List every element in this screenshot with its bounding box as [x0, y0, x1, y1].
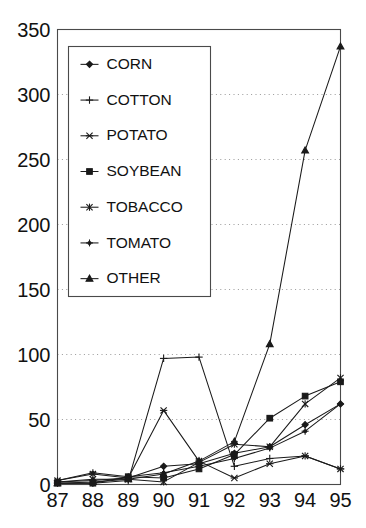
x-axis-tick-label: 89	[117, 489, 139, 511]
data-point-marker-star	[337, 374, 343, 381]
chart-canvas: 050100150200250300350 878889909192939495…	[0, 0, 366, 528]
x-axis-tick-labels: 878889909192939495	[46, 489, 351, 511]
data-point-marker-star	[302, 400, 308, 407]
y-axis-tick-labels: 050100150200250300350	[17, 19, 50, 496]
x-axis-tick-label: 91	[188, 489, 210, 511]
y-axis-tick-label: 150	[17, 279, 50, 301]
legend-item-label: COTTON	[107, 91, 172, 108]
data-point-marker-plus-dot	[89, 469, 96, 476]
x-axis-tick-label: 92	[223, 489, 245, 511]
line-chart: 050100150200250300350 878889909192939495…	[0, 0, 366, 528]
y-axis-tick-label: 250	[17, 149, 50, 171]
data-point-marker-plus	[231, 463, 238, 470]
y-axis-tick-label: 300	[17, 84, 50, 106]
legend-item-label: SOYBEAN	[107, 162, 182, 179]
data-point-marker-square	[87, 169, 93, 175]
y-axis-tick-label: 50	[28, 409, 50, 431]
x-axis-tick-label: 88	[82, 489, 104, 511]
data-point-marker-triangle	[302, 147, 309, 153]
data-point-marker-diamond	[302, 422, 308, 428]
series-soybean	[55, 379, 344, 486]
y-axis-tick-label: 350	[17, 19, 50, 41]
y-axis-tick-label: 100	[17, 344, 50, 366]
data-point-marker-triangle	[266, 341, 273, 347]
chart-legend: CORNCOTTONPOTATOSOYBEANTOBACCOTOMATOOTHE…	[69, 47, 211, 297]
legend-item-label: TOBACCO	[107, 198, 183, 215]
series-corn	[54, 401, 343, 485]
legend-item-label: OTHER	[107, 269, 161, 286]
x-axis-tick-label: 93	[259, 489, 281, 511]
x-axis-tick-label: 94	[294, 489, 316, 511]
legend-item-label: TOMATO	[107, 234, 172, 251]
x-axis-tick-label: 90	[153, 489, 175, 511]
y-axis-tick-label: 200	[17, 214, 50, 236]
data-point-marker-plus	[195, 353, 202, 360]
data-point-marker-plus	[160, 355, 167, 362]
data-point-marker-square	[302, 393, 308, 399]
data-point-marker-asterisk	[231, 475, 238, 481]
data-point-marker-square	[267, 415, 273, 421]
x-axis-tick-label: 87	[46, 489, 68, 511]
data-point-marker-diamond	[161, 463, 167, 469]
data-point-marker-asterisk	[160, 407, 167, 413]
legend-item-label: POTATO	[107, 126, 168, 143]
data-point-marker-triangle	[337, 43, 344, 49]
x-axis-tick-label: 95	[329, 489, 351, 511]
legend-item-label: CORN	[107, 55, 153, 72]
